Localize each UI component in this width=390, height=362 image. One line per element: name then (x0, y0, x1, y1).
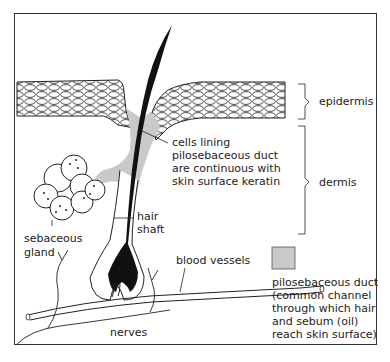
epidermis-bracket (298, 84, 309, 119)
dermis-bracket (298, 126, 309, 234)
epidermis-left (17, 80, 134, 128)
label-epidermis: epidermis (319, 95, 373, 108)
epidermis-right (150, 82, 285, 140)
label-dermis: dermis (319, 176, 357, 189)
label-blood-vessels: blood vessels (176, 254, 250, 267)
label-nerves: nerves (110, 326, 147, 339)
legend-swatch (272, 247, 295, 269)
